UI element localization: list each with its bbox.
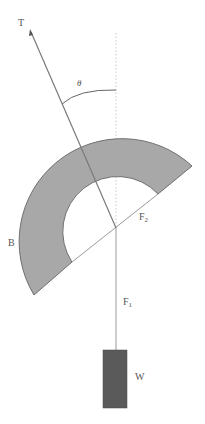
diameter-line xyxy=(72,194,158,262)
label-f2: F2 xyxy=(139,211,149,224)
theta-arc xyxy=(62,90,116,104)
label-f1: F1 xyxy=(123,296,133,309)
label-body: B xyxy=(8,237,15,248)
label-tension: T xyxy=(18,17,24,28)
body-b xyxy=(19,139,192,295)
force-diagram: T θ B F2 F1 W xyxy=(0,0,205,424)
label-theta: θ xyxy=(77,78,82,88)
weight-block xyxy=(103,350,127,408)
label-weight: W xyxy=(135,371,145,382)
tension-arrowhead-icon xyxy=(29,29,33,36)
